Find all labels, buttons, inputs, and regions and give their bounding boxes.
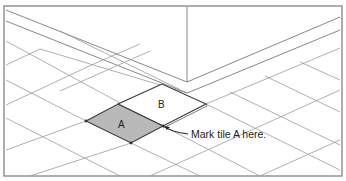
- callout: Mark tile A here.: [164, 126, 266, 140]
- callout-text: Mark tile A here.: [191, 128, 266, 140]
- tile-a-label: A: [118, 119, 125, 130]
- tile-b-label: B: [158, 99, 165, 110]
- wall-lines: [6, 7, 340, 93]
- tile-installation-diagram: B A Mark tile A here.: [0, 0, 346, 181]
